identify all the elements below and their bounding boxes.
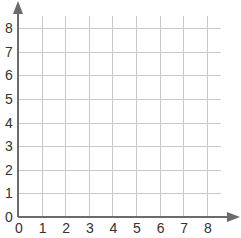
y-tick-label: 8: [5, 20, 13, 36]
x-tick-label: 6: [157, 220, 165, 236]
axes: [13, 1, 240, 222]
y-tick-label: 4: [5, 115, 13, 131]
x-tick-label: 2: [62, 220, 70, 236]
y-tick-label: 7: [5, 44, 13, 60]
x-tick-label: 3: [86, 220, 94, 236]
x-tick-label: 4: [110, 220, 118, 236]
coordinate-grid-chart: 012345678 012345678: [0, 0, 241, 238]
x-axis-arrow-icon: [227, 212, 240, 222]
y-tick-label: 0: [5, 209, 13, 225]
x-tick-label: 5: [133, 220, 141, 236]
y-tick-label: 2: [5, 162, 13, 178]
x-tick-label: 1: [39, 220, 47, 236]
y-axis-tick-labels: 012345678: [5, 20, 13, 225]
y-tick-label: 3: [5, 138, 13, 154]
grid-lines: [18, 16, 221, 217]
y-axis-arrow-icon: [13, 1, 23, 14]
x-axis-tick-labels: 012345678: [15, 220, 212, 236]
x-tick-label: 0: [15, 220, 23, 236]
x-tick-label: 8: [204, 220, 212, 236]
y-tick-label: 1: [5, 185, 13, 201]
y-tick-label: 5: [5, 91, 13, 107]
y-tick-label: 6: [5, 67, 13, 83]
x-tick-label: 7: [180, 220, 188, 236]
